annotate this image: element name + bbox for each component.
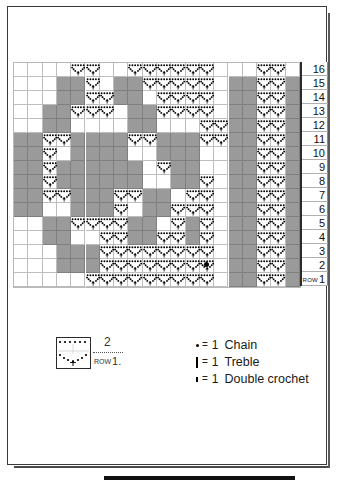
chart-cell	[214, 133, 228, 147]
chart-cell	[271, 77, 285, 91]
chart-cell	[243, 217, 257, 231]
chart-cell	[71, 203, 85, 217]
treble-bar-icon	[192, 355, 202, 368]
chart-cell	[200, 133, 214, 147]
chart-cell	[43, 147, 57, 161]
chart-cell	[14, 273, 28, 287]
chart-cell	[43, 273, 57, 287]
chart-cell	[100, 63, 114, 77]
chart-cell	[14, 119, 28, 133]
row-number-text: 11	[314, 133, 325, 145]
chart-cell	[86, 245, 100, 259]
chart-cell	[157, 231, 171, 245]
chart-cell	[28, 231, 42, 245]
chart-cell	[157, 63, 171, 77]
chart-cell	[257, 105, 271, 119]
chart-cell	[143, 161, 157, 175]
chart-cell	[271, 245, 285, 259]
chart-cell	[28, 161, 42, 175]
chart-cell	[186, 91, 200, 105]
chart-cell	[86, 203, 100, 217]
key-count: 1	[212, 372, 219, 386]
chart-cell	[57, 119, 71, 133]
chart-cell	[171, 273, 185, 287]
chart-cell	[86, 63, 100, 77]
chart-cell	[186, 217, 200, 231]
chart-cell	[114, 203, 128, 217]
chart-cell	[114, 133, 128, 147]
chart-cell	[243, 105, 257, 119]
chart-cell	[186, 245, 200, 259]
chart-cell	[14, 105, 28, 119]
bottom-rule	[104, 476, 295, 480]
chart-cell	[43, 161, 57, 175]
chart-cell	[114, 63, 128, 77]
chart-cell	[114, 77, 128, 91]
chart-cell	[200, 119, 214, 133]
chart-cell	[14, 231, 28, 245]
key-count: 1	[212, 338, 219, 352]
chart-cell	[229, 119, 243, 133]
chart-cell	[28, 63, 42, 77]
chart-cell	[71, 189, 85, 203]
chart-cell	[186, 273, 200, 287]
chart-cell	[28, 259, 42, 273]
chart-cell	[271, 91, 285, 105]
chart-cell	[171, 119, 185, 133]
chart-cell	[114, 259, 128, 273]
chart-cell	[43, 245, 57, 259]
chart-cell	[171, 189, 185, 203]
row-number-1: ROW1	[302, 272, 328, 286]
chart-cell	[157, 189, 171, 203]
chart-cell	[71, 217, 85, 231]
chart-cell	[214, 63, 228, 77]
chart-cell	[214, 231, 228, 245]
chart-cell	[286, 91, 300, 105]
row-number-16: 16	[302, 62, 328, 76]
chart-cell	[128, 259, 142, 273]
chart-cell	[186, 203, 200, 217]
chart-cell	[157, 259, 171, 273]
chart-cell	[214, 147, 228, 161]
chart-cell	[157, 203, 171, 217]
chart-cell	[214, 273, 228, 287]
chart-cell	[28, 119, 42, 133]
chart-cell	[157, 147, 171, 161]
chart-cell	[143, 189, 157, 203]
chart-cell	[143, 91, 157, 105]
chart-cell	[271, 105, 285, 119]
chart-cell	[57, 217, 71, 231]
chain-dot-icon	[192, 339, 202, 351]
chart-cell	[28, 203, 42, 217]
row-number-text: 1	[319, 273, 325, 285]
chain-dot-glyph	[196, 344, 199, 347]
chart-cell	[200, 77, 214, 91]
chart-cell	[271, 175, 285, 189]
chart-cell	[28, 273, 42, 287]
chart-cell	[114, 217, 128, 231]
chart-cell	[14, 63, 28, 77]
chart-cell	[28, 189, 42, 203]
key-row-chain-dot: =1Chain	[192, 336, 309, 353]
chart-cell	[257, 245, 271, 259]
chart-cell	[286, 161, 300, 175]
chart-cell	[43, 91, 57, 105]
chart-cell	[171, 91, 185, 105]
chart-cell	[43, 259, 57, 273]
chart-cell	[286, 231, 300, 245]
chart-cell	[171, 105, 185, 119]
chart-cell	[71, 63, 85, 77]
chart-cell	[200, 105, 214, 119]
chart-cell	[157, 273, 171, 287]
chart-cell	[229, 189, 243, 203]
chart-cell	[257, 147, 271, 161]
chart-cell	[43, 63, 57, 77]
chart-cell	[28, 217, 42, 231]
key-row-treble-bar: =1Treble	[192, 353, 309, 370]
chart-cell	[286, 147, 300, 161]
chart-cell	[243, 203, 257, 217]
chart-cell	[128, 189, 142, 203]
row-number-6: 6	[302, 202, 328, 216]
chart-cell	[286, 119, 300, 133]
chart-cell	[229, 147, 243, 161]
